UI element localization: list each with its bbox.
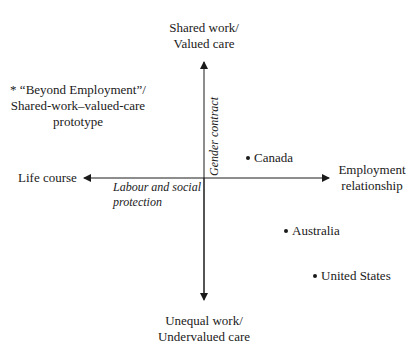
horizontal-axis-label-line2: protection	[113, 195, 201, 210]
bottom-pole-line1: Unequal work/	[149, 313, 259, 329]
bottom-pole-line2: Undervalued care	[149, 329, 259, 345]
prototype-line3: prototype	[8, 114, 148, 130]
horizontal-axis-label-line1: Labour and social	[113, 180, 201, 195]
bottom-pole-label: Unequal work/ Undervalued care	[149, 313, 259, 345]
top-pole-line2: Valued care	[164, 36, 244, 52]
right-pole-line2: relationship	[334, 178, 410, 194]
point-marker	[313, 274, 317, 278]
point-label: United States	[321, 268, 391, 283]
top-pole-line1: Shared work/	[164, 20, 244, 36]
vertical-axis-label: Gender contract	[207, 97, 221, 176]
point-label: Canada	[254, 150, 293, 165]
point-canada: Canada	[246, 150, 293, 166]
top-pole-label: Shared work/ Valued care	[164, 20, 244, 52]
right-pole-line1: Employment	[334, 162, 410, 178]
point-australia: Australia	[284, 223, 340, 239]
point-united-states: United States	[313, 268, 391, 284]
point-marker	[284, 229, 288, 233]
horizontal-axis-label: Labour and social protection	[113, 180, 201, 210]
point-label: Australia	[292, 223, 340, 238]
prototype-line1: * “Beyond Employment”/	[8, 82, 148, 98]
prototype-line2: Shared-work–valued-care	[8, 98, 148, 114]
left-pole-label: Life course	[18, 170, 77, 186]
point-marker	[246, 156, 250, 160]
right-pole-label: Employment relationship	[334, 162, 410, 194]
prototype-label: * “Beyond Employment”/ Shared-work–value…	[8, 82, 148, 130]
